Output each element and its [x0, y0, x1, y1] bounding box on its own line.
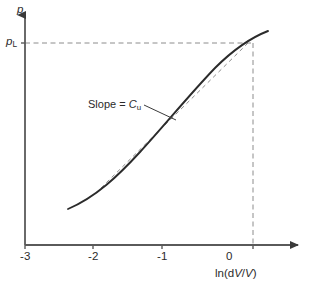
- x-axis-tick-label: -3: [20, 251, 31, 263]
- figure-container: p pL -3 -2 -1 0 ln(dV/V) Slope = Cu: [0, 0, 313, 291]
- x-axis-title-volume-increment: V: [234, 267, 242, 279]
- y-axis-tick-label-pl: pL: [6, 36, 17, 49]
- slope-symbol: C: [129, 98, 137, 110]
- y-axis-title-text: p: [17, 3, 23, 15]
- slope-annotation-leader-line: [144, 105, 176, 120]
- x-axis-title-prefix: ln(d: [215, 267, 234, 279]
- x-axis-tick-label: -2: [88, 251, 99, 263]
- x-axis-title-suffix: ): [253, 267, 257, 279]
- x-axis-tick-label: 0: [226, 251, 233, 263]
- plot-canvas: [0, 0, 313, 291]
- x-axis-tick-label: -1: [157, 251, 168, 263]
- tangent-dashed-line: [101, 43, 248, 188]
- slope-symbol-subscript: u: [137, 103, 141, 112]
- x-axis-title: ln(dV/V): [215, 268, 257, 280]
- pl-subscript: L: [13, 40, 18, 49]
- compression-curve: [68, 31, 268, 209]
- x-axis-title-volume: V: [245, 267, 253, 279]
- slope-annotation-label: Slope = Cu: [88, 99, 141, 112]
- pl-symbol: p: [6, 35, 13, 47]
- slope-annotation-text: Slope =: [88, 98, 126, 110]
- y-axis-title: p: [17, 4, 23, 16]
